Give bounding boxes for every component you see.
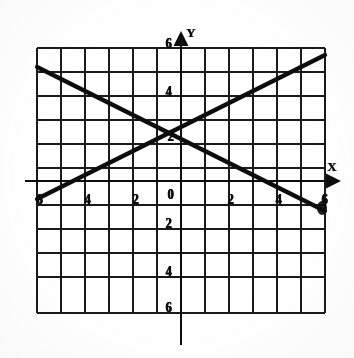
y-tick-label-pos4: 4 — [166, 84, 172, 99]
y-tick-label-neg6: 6 — [166, 300, 172, 315]
x-axis-arrow-icon — [326, 174, 341, 189]
x-tick-label-neg6: 6 — [37, 192, 43, 207]
x-tick-label-pos2: 2 — [228, 192, 234, 207]
origin-label: 0 — [168, 187, 174, 202]
graph-canvas — [0, 0, 354, 358]
y-tick-label-pos2: 2 — [168, 129, 174, 144]
y-tick-label-pos6: 6 — [166, 36, 172, 51]
x-tick-label-pos4: 4 — [276, 192, 282, 207]
y-tick-label-neg4: 4 — [166, 264, 172, 279]
x-tick-label-pos6: 6 — [322, 192, 328, 207]
coordinate-graph-figure: 6 4 2 0 2 4 6 6 4 2 2 4 6 Y X — [0, 0, 354, 358]
y-tick-label-neg2: 2 — [166, 216, 172, 231]
x-tick-label-neg4: 4 — [85, 192, 91, 207]
y-axis-label: Y — [186, 26, 195, 39]
x-tick-label-neg2: 2 — [133, 192, 139, 207]
x-axis-label: X — [327, 160, 336, 173]
